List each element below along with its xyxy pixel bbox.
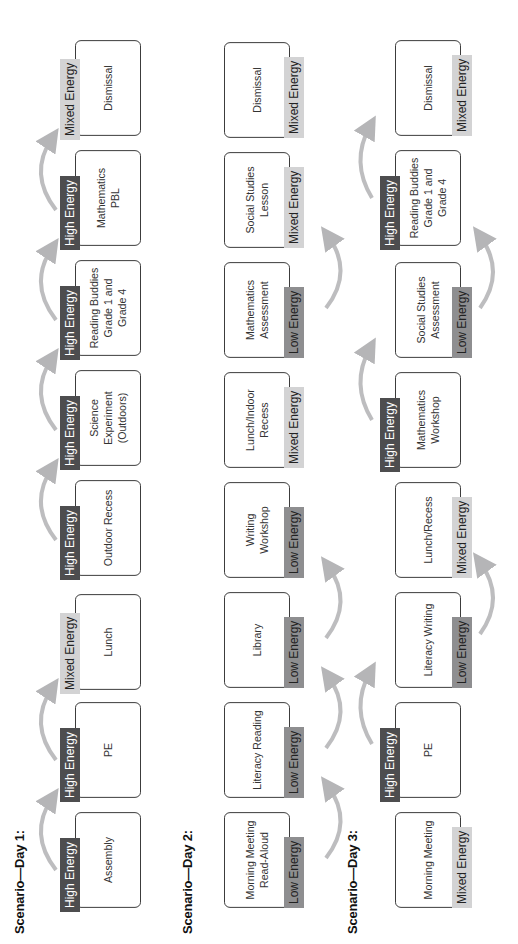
energy-badge: Mixed Energy [452, 497, 472, 578]
activity-box: Mathematics Assessment [224, 262, 290, 358]
activity-box: Dismissal [75, 40, 141, 136]
day-3-title: Scenario—Day 3: [345, 830, 360, 934]
energy-badge: High Energy [60, 838, 80, 912]
activity-box: Literacy Reading [224, 702, 290, 798]
energy-badge: High Energy [380, 398, 400, 472]
energy-badge: Mixed Energy [284, 57, 304, 138]
activity-box: Lunch [75, 594, 141, 690]
energy-badge: Mixed Energy [452, 827, 472, 908]
activity-box: Science Experiment (Outdoors) [75, 370, 141, 466]
activity-box: Dismissal [224, 42, 290, 138]
energy-badge: High Energy [380, 176, 400, 250]
activity-box: Library [224, 592, 290, 688]
energy-badge: High Energy [60, 286, 80, 360]
energy-badge: High Energy [60, 728, 80, 802]
day-1-title: Scenario—Day 1: [12, 830, 27, 934]
activity-box: Reading Buddies Grade 1 and Grade 4 [75, 260, 141, 356]
activity-box: Lunch/Indoor Recess [224, 372, 290, 468]
energy-badge: Mixed Energy [284, 387, 304, 468]
activity-box: PE [395, 702, 461, 798]
energy-badge: Mixed Energy [284, 167, 304, 248]
activity-box: Outdoor Recess [75, 480, 141, 576]
energy-badge: Low Energy [452, 617, 472, 688]
activity-box: Morning Meeting Read-Aloud [224, 812, 290, 908]
activity-box: Reading Buddies Grade 1 and Grade 4 [395, 150, 461, 246]
energy-badge: Mixed Energy [60, 613, 80, 694]
activity-box: Mathematics Workshop [395, 372, 461, 468]
energy-badge: Low Energy [284, 617, 304, 688]
energy-badge: Low Energy [284, 727, 304, 798]
energy-badge: High Energy [380, 728, 400, 802]
energy-badge: High Energy [60, 396, 80, 470]
energy-badge: Low Energy [284, 837, 304, 908]
energy-badge: Mixed Energy [60, 59, 80, 140]
activity-box: Writing Workshop [224, 482, 290, 578]
energy-badge: High Energy [60, 176, 80, 250]
energy-schedule-diagram: Scenario—Day 1: Assembly High Energy PE … [0, 0, 518, 944]
day-2-title: Scenario—Day 2: [180, 830, 195, 934]
activity-box: Mathematics PBL [75, 150, 141, 246]
energy-badge: High Energy [60, 506, 80, 580]
energy-badge: Low Energy [284, 507, 304, 578]
activity-box: PE [75, 702, 141, 798]
activity-box: Social Studies Lesson [224, 152, 290, 248]
energy-badge: Mixed Energy [452, 55, 472, 136]
transition-arrows [0, 0, 518, 944]
energy-badge: Low Energy [452, 287, 472, 358]
activity-box: Assembly [75, 812, 141, 908]
energy-badge: Low Energy [284, 287, 304, 358]
